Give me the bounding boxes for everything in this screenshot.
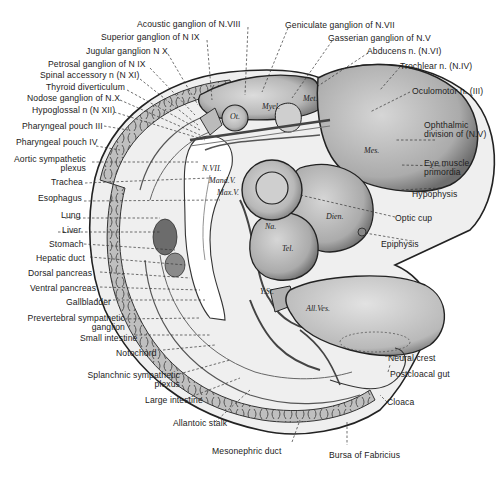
label-liver: Liver [62, 226, 81, 235]
inner-label-telencephalon: Tel. [282, 244, 294, 253]
label-superior-ganglion: Superior ganglion of N IX [101, 33, 200, 42]
inner-label-mesencephalon: Mes. [364, 146, 379, 155]
label-neural-crest: Neural crest [388, 354, 436, 363]
label-jugular-ganglion: Jugular ganglion N X [86, 47, 168, 56]
label-mesonephric-duct: Mesonephric duct [212, 447, 281, 456]
label-dorsal-pancreas: Dorsal pancreas [28, 269, 92, 278]
embryo-diagram: Acoustic ganglion of N.VIII Superior gan… [0, 0, 503, 477]
label-pharyngeal-pouch-4: Pharyngeal pouch IV [16, 138, 98, 147]
inner-label-metencephalon: Met. [303, 94, 317, 103]
label-large-intestine: Large intestine [145, 396, 203, 405]
label-thyroid-diverticulum: Thyroid diverticulum [46, 83, 125, 92]
label-hypoglossal-n: Hypoglossal n (N XII) [32, 106, 115, 115]
inner-label-maxillary-v: Max.V. [217, 188, 239, 197]
label-aortic-sympathetic-plexus: Aortic sympathetic plexus [10, 155, 86, 173]
label-gasserian-ganglion: Gasserian ganglion of N.V [328, 34, 431, 43]
inner-label-allantoic-vesicle: All.Ves. [306, 304, 330, 313]
label-eye-muscle-primordia: Eye muscle primordia [424, 159, 469, 177]
label-esophagus: Esophagus [38, 194, 82, 203]
inner-label-myelencephalon: Myel. [262, 102, 280, 111]
label-bursa-of-fabricius: Bursa of Fabricius [329, 451, 400, 460]
inner-label-otocyst: Ot. [230, 112, 240, 121]
label-hypophysis: Hypophysis [412, 190, 457, 199]
label-ventral-pancreas: Ventral pancreas [30, 284, 96, 293]
label-hepatic-duct: Hepatic duct [36, 254, 85, 263]
label-petrosal-ganglion: Petrosal ganglion of N IX [48, 60, 146, 69]
label-epiphysis: Epiphysis [381, 240, 419, 249]
label-notochord: Notochord [116, 349, 157, 358]
label-postcloacal-gut: Postcloacal gut [390, 370, 450, 379]
label-abducens-n: Abducens n. (N.VI) [367, 47, 441, 56]
label-oculomotor-n: Oculomotor n. (III) [412, 87, 483, 96]
inner-label-mandibular-v: Mand.V. [209, 176, 236, 185]
label-ophthalmic-division: Ophthalmic division of (N.V) [424, 121, 486, 139]
label-optic-cup: Optic cup [395, 214, 432, 223]
label-allantoic-stalk: Allantoic stalk [173, 419, 227, 428]
inner-label-nasal: Na. [265, 222, 276, 231]
label-gallbladder: Gallbladder [66, 298, 111, 307]
label-splanchnic-sympathetic-plexus: Splanchnic sympathetic plexus [80, 371, 180, 389]
label-acoustic-ganglion: Acoustic ganglion of N.VIII [137, 20, 241, 29]
inner-label-diencephalon: Dien. [326, 212, 344, 221]
label-prevertebral-sympathetic-ganglion: Prevertebral sympathetic ganglion [25, 314, 125, 332]
inner-label-n-vii: N.VII. [202, 164, 222, 173]
label-trachea: Trachea [51, 178, 83, 187]
label-stomach: Stomach [49, 240, 84, 249]
label-cloaca: Cloaca [387, 398, 414, 407]
label-geniculate-ganglion: Geniculate ganglion of N.VII [285, 21, 395, 30]
inner-label-yolk-stalk: Y.St. [260, 287, 274, 296]
label-lung: Lung [61, 211, 81, 220]
label-nodose-ganglion: Nodose ganglion of N.X [27, 94, 120, 103]
label-pharyngeal-pouch-3: Pharyngeal pouch III [22, 122, 103, 131]
label-small-intestine: Small intestine [80, 334, 137, 343]
label-spinal-accessory: Spinal accessory n (N XI) [40, 71, 139, 80]
label-trochlear-n: Trochlear n. (N.IV) [400, 62, 472, 71]
